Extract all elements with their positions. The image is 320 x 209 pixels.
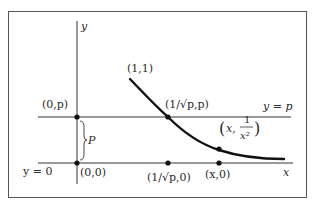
y-zero-label: y = 0: [22, 165, 52, 178]
x-axis-label: x: [283, 166, 290, 179]
y-axis-label: y: [80, 20, 88, 33]
point-y-intercept-p-label: (0,p): [42, 98, 68, 111]
curve-start-label: (1,1): [127, 62, 153, 75]
point-intersection: [165, 114, 170, 119]
diagram: y y = p x y = 0 P (1,1) (0,0) (0,p) (1/√…: [0, 0, 320, 209]
line-y-equals-p-label: y = p: [262, 100, 292, 113]
point-curve-label: ( x, 1 x² ): [219, 114, 260, 141]
point-x-proj-curve-label: (x,0): [205, 168, 230, 181]
gap-brace: [80, 121, 87, 160]
paren-open: (: [219, 119, 225, 138]
point-x-proj-intersection-label: (1/√p,0): [147, 171, 191, 184]
point-origin: [74, 160, 79, 165]
point-y-intercept-p: [74, 114, 79, 119]
point-x-proj-intersection: [165, 160, 170, 165]
point-curve: [216, 146, 221, 151]
paren-close: ): [254, 119, 260, 138]
point-curve-label-den: x²: [240, 130, 250, 141]
point-curve-label-num: 1: [244, 114, 250, 125]
gap-brace-label: P: [87, 134, 96, 147]
point-curve-label-prefix: x,: [226, 122, 236, 135]
point-intersection-label: (1/√p,p): [165, 98, 209, 111]
point-origin-label: (0,0): [80, 166, 106, 179]
point-x-proj-curve: [216, 160, 221, 165]
curve-inverse-square: [130, 79, 284, 159]
